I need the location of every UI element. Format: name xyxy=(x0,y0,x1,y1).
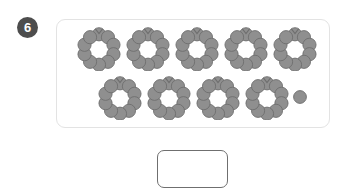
bundle-of-ten xyxy=(125,25,171,71)
bundle-of-ten xyxy=(174,25,220,71)
question-number-badge: 6 xyxy=(17,17,38,38)
bundle-of-ten xyxy=(195,74,241,120)
worksheet-question: 6 xyxy=(0,0,346,195)
bundle-of-ten xyxy=(244,74,290,120)
counters-row-top xyxy=(57,24,329,72)
counters-row-bottom xyxy=(57,73,329,121)
bundle-of-ten xyxy=(76,25,122,71)
answer-input-box[interactable] xyxy=(157,150,228,188)
bundle-of-ten xyxy=(223,25,269,71)
loose-single-dot xyxy=(293,74,307,120)
counters-rows xyxy=(57,20,329,127)
counters-panel xyxy=(56,19,330,128)
bundle-of-ten xyxy=(272,25,318,71)
counters-row-top-items xyxy=(76,24,318,72)
counters-row-bottom-items xyxy=(97,73,307,121)
bundle-of-ten xyxy=(97,74,143,120)
bundle-of-ten xyxy=(146,74,192,120)
answer-value xyxy=(158,151,227,187)
